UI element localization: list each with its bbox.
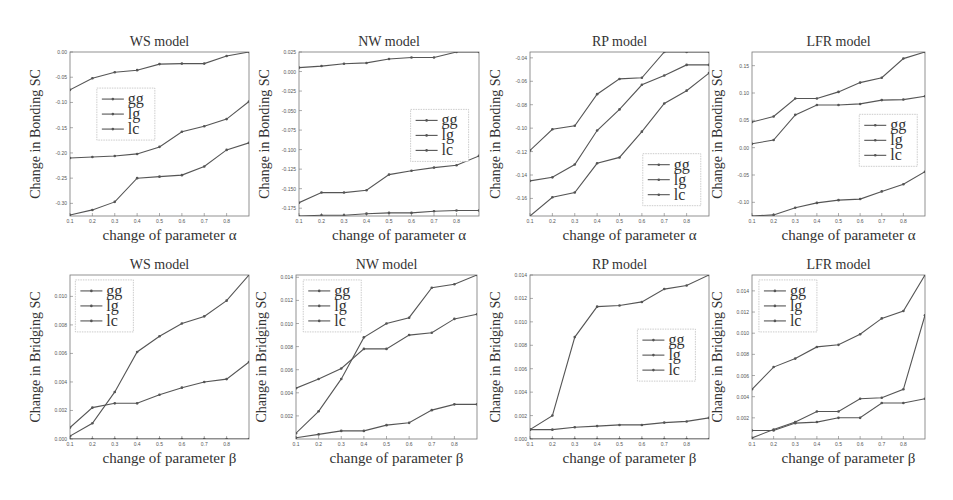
figure-canvas: WS model0.00-0.05-0.10-0.15-0.20-0.25-0.…: [0, 0, 953, 500]
y-tick-label: 0.006: [280, 367, 293, 373]
y-tick-label: 0.014: [514, 272, 527, 278]
y-tick-label: -0.125: [282, 166, 296, 172]
series-lg: [529, 417, 711, 431]
y-tick-label: 0.000: [283, 69, 296, 75]
legend-label-lc: lc: [890, 146, 902, 163]
legend-label-lc: lc: [442, 141, 454, 158]
x-tick-label: 0.1: [67, 441, 74, 447]
y-tick-label: 0.004: [514, 389, 527, 395]
x-tick-label: 0.3: [341, 218, 348, 224]
y-tick-label: -0.100: [282, 147, 296, 153]
x-tick-label: 0.3: [338, 441, 345, 447]
chart-title: LFR model: [806, 34, 870, 49]
series-lg: [69, 100, 251, 159]
x-axis-label: change of parameter α: [781, 227, 915, 243]
x-tick-label: 0.8: [223, 218, 230, 224]
x-axis-label: change of parameter α: [332, 227, 466, 243]
legend: gglglc: [75, 280, 133, 332]
x-tick-label: 0.6: [408, 218, 415, 224]
chart-ws-bonding: WS model0.00-0.05-0.10-0.15-0.20-0.25-0.…: [28, 34, 250, 243]
x-tick-label: 0.8: [900, 218, 907, 224]
x-tick-label: 0.2: [770, 441, 777, 447]
x-tick-label: 0.8: [900, 441, 907, 447]
y-tick-label: 0.008: [736, 351, 749, 357]
chart-title: RP model: [592, 34, 647, 49]
y-tick-label: 0.012: [736, 309, 749, 315]
y-tick-label: -0.30: [56, 200, 68, 206]
y-tick-label: 0.008: [280, 344, 293, 350]
y-tick-label: -0.14: [516, 172, 528, 178]
x-tick-label: 0.8: [683, 441, 690, 447]
x-tick-label: 0.7: [661, 441, 668, 447]
chart-lfr-bonding: LFR model0.150.100.050.00-0.05-0.100.10.…: [710, 34, 926, 243]
series-gg: [529, 51, 711, 152]
x-tick-label: 0.7: [878, 218, 885, 224]
series-lg: [751, 397, 927, 431]
y-tick-label: -0.150: [282, 186, 296, 192]
x-tick-label: 0.6: [178, 218, 185, 224]
x-tick-label: 0.6: [857, 218, 864, 224]
y-tick-label: 0.008: [54, 322, 67, 328]
y-axis-label: Change in Bridging SC: [710, 291, 725, 422]
y-axis-label: Change in Bonding SC: [488, 69, 503, 199]
y-tick-label: 0.002: [54, 407, 67, 413]
y-tick-label: 0.012: [514, 295, 527, 301]
y-tick-label: 0.10: [739, 90, 749, 96]
chart-title: NW model: [356, 257, 418, 272]
y-tick-label: 0.010: [736, 330, 749, 336]
x-axis-label: change of parameter α: [562, 227, 696, 243]
x-tick-label: 0.4: [594, 441, 601, 447]
x-tick-label: 0.3: [571, 218, 578, 224]
x-tick-label: 0.8: [683, 218, 690, 224]
y-tick-label: -0.050: [282, 108, 296, 114]
y-tick-label: -0.075: [282, 127, 296, 133]
y-tick-label: 0.004: [280, 390, 293, 396]
y-tick-label: 0.006: [736, 373, 749, 379]
x-tick-label: 0.1: [527, 441, 534, 447]
y-axis-label: Change in Bridging SC: [28, 291, 43, 422]
x-tick-label: 0.1: [749, 441, 756, 447]
x-tick-label: 0.5: [616, 441, 623, 447]
y-tick-label: 0.004: [736, 394, 749, 400]
chart-title: LFR model: [806, 257, 870, 272]
y-axis-label: Change in Bridging SC: [488, 291, 503, 422]
x-tick-label: 0.5: [156, 441, 163, 447]
chart-rp-bonding: RP model-0.04-0.06-0.08-0.10-0.12-0.14-0…: [488, 34, 710, 243]
x-axis-label: change of parameter β: [782, 450, 916, 466]
y-tick-label: 0.014: [280, 274, 293, 280]
x-tick-label: 0.2: [89, 441, 96, 447]
y-tick-label: -0.16: [516, 195, 528, 201]
x-tick-label: 0.1: [749, 218, 756, 224]
series-lc: [529, 438, 711, 441]
y-tick-label: 0.00: [739, 145, 749, 151]
y-tick-label: -0.025: [282, 88, 296, 94]
y-tick-label: 0.002: [736, 415, 749, 421]
x-tick-label: 0.1: [527, 218, 534, 224]
y-tick-label: -0.04: [516, 55, 528, 61]
y-tick-label: -0.20: [56, 150, 68, 156]
y-tick-label: 0.15: [739, 63, 749, 69]
x-tick-label: 0.7: [431, 218, 438, 224]
x-axis-label: change of parameter β: [563, 450, 697, 466]
x-tick-label: 0.2: [549, 218, 556, 224]
y-tick-label: 0.014: [736, 288, 749, 294]
legend-label-lc: lc: [128, 120, 140, 137]
x-tick-label: 0.6: [178, 441, 185, 447]
series-gg: [751, 51, 927, 124]
x-tick-label: 0.1: [296, 218, 303, 224]
y-tick-label: 0.000: [514, 436, 527, 442]
x-tick-label: 0.7: [661, 218, 668, 224]
legend: gglglc: [97, 88, 155, 140]
y-axis-label: Change in Bonding SC: [710, 69, 725, 199]
y-tick-label: 0.002: [514, 413, 527, 419]
x-tick-label: 0.4: [360, 441, 367, 447]
y-tick-label: -0.10: [516, 125, 528, 131]
legend-label-lc: lc: [790, 312, 802, 329]
x-tick-label: 0.4: [363, 218, 370, 224]
y-tick-label: -0.08: [516, 102, 528, 108]
x-tick-label: 0.4: [813, 441, 820, 447]
y-tick-label: 0.00: [57, 49, 67, 55]
y-tick-label: -0.06: [516, 78, 528, 84]
y-tick-label: 0.010: [54, 293, 67, 299]
y-tick-label: -0.05: [738, 172, 750, 178]
